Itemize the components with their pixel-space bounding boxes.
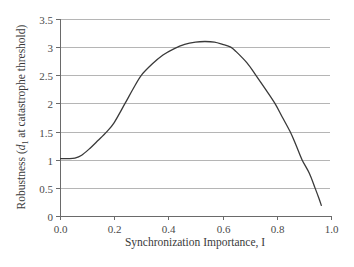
y-tick-label: 2.5 (39, 70, 53, 82)
gridlines (60, 20, 330, 189)
x-axis-ticks: 0.00.20.40.60.81.0 (54, 216, 339, 235)
axes (60, 19, 331, 217)
y-tick-label: 2 (48, 98, 54, 110)
y-axis-title: Robustness (d1 at catastrophe threshold) (15, 24, 30, 209)
line-chart: 00.511.522.533.5 0.00.20.40.60.81.0 Sync… (0, 0, 354, 267)
robustness-curve (60, 42, 322, 206)
y-tick-label: 1 (48, 155, 54, 167)
x-tick-label: 0.2 (108, 223, 122, 235)
x-tick-label: 1.0 (325, 223, 339, 235)
y-tick-label: 1.5 (39, 127, 53, 139)
y-axis-title-prefix: Robustness ( (15, 150, 28, 209)
x-tick-label: 0.6 (217, 223, 231, 235)
x-axis-title: Synchronization Importance, I (125, 236, 265, 249)
x-tick-label: 0.0 (54, 223, 68, 235)
y-tick-label: 0.5 (39, 183, 53, 195)
x-tick-label: 0.4 (162, 223, 176, 235)
x-tick-label: 0.8 (271, 223, 285, 235)
y-axis-title-suffix: at catastrophe threshold) (15, 24, 28, 140)
y-axis-ticks: 00.511.522.533.5 (39, 14, 60, 223)
y-tick-label: 0 (48, 211, 54, 223)
y-tick-label: 3 (48, 42, 54, 54)
y-tick-label: 3.5 (39, 14, 53, 26)
